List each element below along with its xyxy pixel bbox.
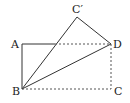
label-C: C — [114, 85, 122, 98]
label-A: A — [10, 38, 20, 51]
segment-BCprime — [22, 17, 77, 89]
label-C-prime: C′ — [72, 3, 83, 16]
label-B: B — [12, 85, 20, 98]
segment-BD — [22, 44, 111, 89]
segment-CprimeD — [77, 17, 111, 44]
label-D: D — [113, 38, 122, 51]
fold-diagram: A B C D C′ — [0, 0, 130, 103]
